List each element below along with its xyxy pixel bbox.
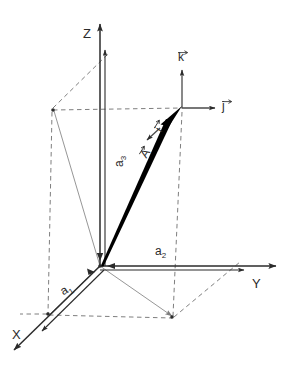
dashed-right-vertical xyxy=(173,112,182,316)
dashed-left-vertical xyxy=(48,112,52,314)
projection-to-back-top xyxy=(54,111,100,266)
k-overarrow-group: k xyxy=(178,50,184,63)
origin-arrow-left-y xyxy=(107,263,115,269)
vertex-base-front xyxy=(170,315,174,319)
origin-tail-arrows xyxy=(87,253,115,275)
vertex-back-top xyxy=(51,108,55,112)
vertex-base-left xyxy=(46,312,50,316)
projection-to-base-front xyxy=(100,266,172,316)
arrow-overbar-icon xyxy=(222,99,233,104)
resultant-vector-A xyxy=(101,106,183,267)
vector-diagram-figure: Z Y X k j i xyxy=(0,0,295,367)
construction-dashed-lines xyxy=(20,54,240,318)
x-axis xyxy=(14,266,100,350)
j-overarrow-group: j xyxy=(222,99,225,112)
component-vector-a1 xyxy=(42,270,104,331)
y-axis-label: Y xyxy=(252,277,261,290)
diagram-canvas xyxy=(0,0,295,367)
unit-vector-k-label: k xyxy=(178,50,184,63)
component-a3-label: a3 xyxy=(113,156,128,167)
component-a2-label: a2 xyxy=(155,245,166,260)
arrow-overbar-icon xyxy=(178,50,189,55)
coordinate-axes xyxy=(14,24,276,350)
dashed-top-edge xyxy=(53,108,182,110)
vertex-origin xyxy=(98,264,102,268)
a3-letter: a xyxy=(112,160,126,167)
unit-vector-j-label: j xyxy=(222,99,225,112)
x-axis-label: X xyxy=(12,328,21,341)
a2-subscript: 2 xyxy=(162,251,166,260)
dashed-bottom-front-edge xyxy=(49,315,172,318)
a3-subscript: 3 xyxy=(119,156,128,160)
z-axis-label: Z xyxy=(83,27,91,40)
a2-letter: a xyxy=(155,244,162,258)
